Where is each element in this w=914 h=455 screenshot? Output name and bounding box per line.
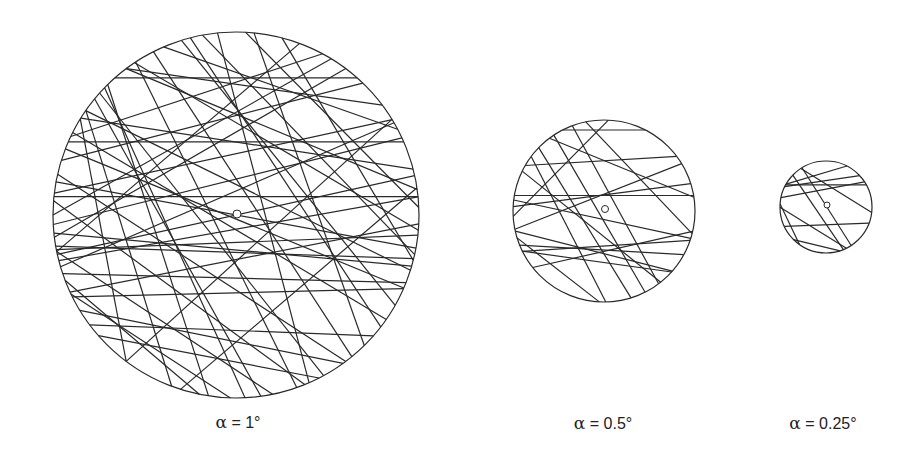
chord-line (65, 149, 404, 288)
chord-line (786, 166, 847, 184)
chord-line (203, 35, 415, 255)
chord-line (63, 274, 406, 283)
chord-line (61, 123, 395, 267)
label-value: = 0.5° (585, 415, 632, 432)
panel-alpha-1 (53, 32, 419, 398)
chord-line (53, 138, 402, 225)
chord-line (190, 38, 380, 327)
chord-line (801, 169, 872, 213)
chord-line (72, 289, 403, 297)
center-marker-icon (824, 202, 830, 208)
alpha-symbol: α (574, 413, 585, 433)
chord-line (793, 175, 844, 249)
center-marker-icon (602, 206, 609, 213)
chord-line (73, 132, 387, 319)
label-value: = 0.25° (801, 415, 857, 432)
panel-alpha-0-5 (513, 120, 695, 302)
alpha-symbol: α (215, 412, 226, 432)
chord-diagram (0, 0, 914, 455)
label-alpha-1: α = 1° (215, 412, 260, 432)
chord-line (780, 207, 846, 248)
chord-line (65, 280, 199, 394)
chord-line (126, 69, 382, 106)
chord-line (56, 246, 414, 259)
chord-line (525, 156, 677, 165)
panel-alpha-0-25 (780, 161, 872, 253)
chord-line (59, 197, 418, 261)
chord-line (522, 251, 671, 272)
label-value: = 1° (227, 414, 261, 431)
center-marker-icon (233, 210, 241, 218)
label-alpha-0-5: α = 0.5° (574, 413, 632, 433)
label-alpha-0-25: α = 0.25° (789, 413, 856, 433)
chord-line (126, 69, 417, 190)
chord-line (153, 52, 351, 357)
chord-line (54, 201, 305, 385)
chord-line (781, 182, 865, 198)
alpha-symbol: α (789, 413, 800, 433)
